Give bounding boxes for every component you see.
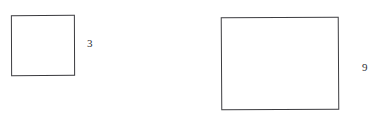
small-square-label: 3 xyxy=(87,37,93,49)
small-square-shape xyxy=(11,15,75,76)
large-rectangle-label: 9 xyxy=(362,61,368,73)
large-rectangle-shape xyxy=(221,17,340,111)
figure-canvas: 3 9 xyxy=(0,0,386,117)
